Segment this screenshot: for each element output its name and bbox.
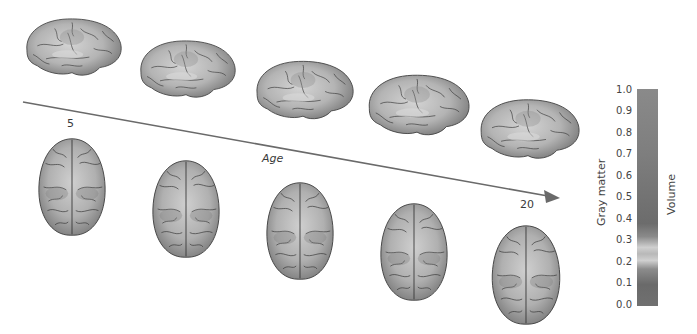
tick-0-1: 0.1 bbox=[608, 277, 632, 288]
gray-matter-colorbar bbox=[637, 89, 658, 306]
tick-0-8: 0.8 bbox=[608, 127, 632, 138]
dorsal-brain-1 bbox=[30, 135, 114, 239]
lateral-brain-4 bbox=[362, 70, 472, 142]
colorbar-title-gray-matter: Gray matter bbox=[595, 159, 608, 226]
tick-0-3: 0.3 bbox=[608, 234, 632, 245]
lateral-brain-5 bbox=[474, 94, 582, 166]
tick-0-2: 0.2 bbox=[608, 256, 632, 267]
dorsal-brain-4 bbox=[372, 200, 456, 304]
tick-0-6: 0.6 bbox=[608, 170, 632, 181]
lateral-brain-1 bbox=[20, 12, 124, 84]
tick-0-5: 0.5 bbox=[608, 191, 632, 202]
age-axis-label: Age bbox=[262, 152, 283, 165]
dorsal-brain-2 bbox=[144, 157, 228, 261]
dorsal-brain-3 bbox=[258, 179, 342, 283]
tick-0-7: 0.7 bbox=[608, 148, 632, 159]
tick-0-0: 0.0 bbox=[608, 299, 632, 310]
tick-0-4: 0.4 bbox=[608, 213, 632, 224]
age-end-label: 20 bbox=[520, 198, 534, 211]
lateral-brain-2 bbox=[134, 34, 238, 106]
colorbar-title-volume: Volume bbox=[665, 174, 678, 215]
tick-1-0: 1.0 bbox=[608, 84, 632, 95]
tick-0-9: 0.9 bbox=[608, 105, 632, 116]
dorsal-brain-5 bbox=[484, 222, 568, 328]
age-start-label: 5 bbox=[67, 117, 74, 130]
lateral-brain-3 bbox=[250, 55, 356, 127]
